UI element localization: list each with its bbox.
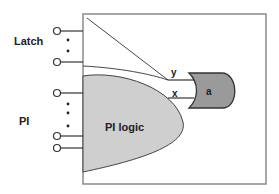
ellipsis-dot [67, 125, 70, 128]
ellipsis-dot [67, 103, 70, 106]
gate-a [189, 73, 235, 108]
pi-pin-2 [54, 133, 61, 140]
signal-x-label: x [172, 88, 178, 99]
latch-pin-1 [54, 28, 61, 35]
pi-pin-1 [54, 90, 61, 97]
latch-pins [54, 28, 84, 66]
ellipsis-dot [67, 39, 70, 42]
ellipsis-dot [67, 50, 70, 53]
ellipsis-dot [67, 112, 70, 115]
pi-pin-3 [54, 145, 61, 152]
latch-pin-2 [54, 59, 61, 66]
pi-logic-label: PI logic [105, 121, 144, 133]
latch-label: Latch [14, 35, 44, 47]
circuit-diagram: Latch PI PI logic y x a [0, 0, 279, 194]
pi-pins [54, 90, 84, 152]
pi-label: PI [19, 115, 29, 127]
signal-y-label: y [171, 67, 177, 78]
gate-a-label: a [206, 86, 212, 97]
